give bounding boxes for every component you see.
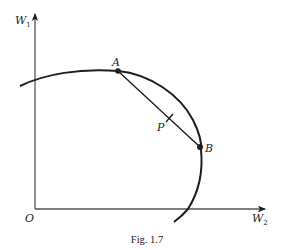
point-p-label: P xyxy=(156,121,165,134)
point-a-label: A xyxy=(111,56,120,69)
figure-caption: Fig. 1.7 xyxy=(131,234,163,245)
point-a-marker xyxy=(115,68,121,74)
chord-ab xyxy=(118,71,200,147)
point-b-label: B xyxy=(204,142,213,155)
x-axis-label: W2 xyxy=(252,212,268,227)
figure-diagram: W1 W2 O A B P Fig. 1.7 xyxy=(0,0,285,250)
frontier-curve xyxy=(20,70,202,222)
y-axis-label: W1 xyxy=(15,14,31,29)
origin-label: O xyxy=(25,212,34,225)
point-b-marker xyxy=(197,144,203,150)
